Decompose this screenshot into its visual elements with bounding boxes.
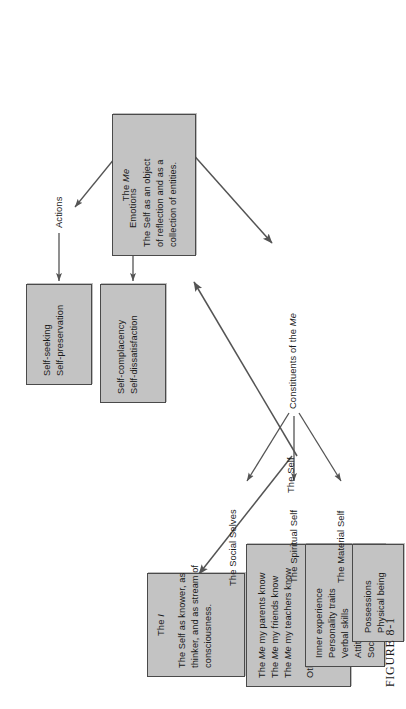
root-label-the-self: The Self bbox=[285, 457, 296, 493]
the-i-body: The Self as knower, as thinker, and as s… bbox=[176, 582, 215, 668]
the-me-body: The Self as an object of reflection and … bbox=[141, 123, 180, 247]
actions-items: Self-seeking Self-preservation bbox=[41, 293, 67, 376]
list-item: The Me my friends know bbox=[269, 553, 282, 678]
the-i-title: The I bbox=[154, 582, 167, 668]
diagram-canvas: The Self The I The Self as knower, as th… bbox=[0, 0, 406, 709]
node-box-the-i: The I The Self as knower, as thinker, an… bbox=[147, 573, 245, 677]
rotated-figure-container: The Self The I The Self as knower, as th… bbox=[0, 0, 406, 709]
list-item: Inner experience bbox=[313, 553, 326, 658]
label-emotions: Emotions bbox=[127, 188, 138, 228]
label-the-social-selves: The Social Selves bbox=[227, 509, 238, 586]
node-box-the-me: The Me The Self as an object of reflecti… bbox=[112, 114, 196, 256]
node-box-emotions: Self-complacency Self-dissatisfaction bbox=[100, 284, 166, 403]
edge-self-to-me bbox=[194, 282, 297, 456]
figure-caption: FIGURE8-1 bbox=[383, 617, 398, 687]
label-the-material-self: The Material Self bbox=[335, 510, 346, 583]
emotions-items: Self-complacency Self-dissatisfaction bbox=[115, 293, 141, 394]
label-the-spiritual-self: The Spiritual Self bbox=[288, 510, 299, 583]
label-constituents-of-the-me: Constituents of the Me bbox=[287, 313, 298, 409]
edge-constituents-to-material bbox=[299, 413, 341, 481]
figure-caption-number: 8-1 bbox=[383, 617, 397, 635]
node-box-actions: Self-seeking Self-preservation bbox=[26, 284, 92, 385]
figure-caption-label: FIGURE bbox=[383, 639, 397, 687]
edge-constituents-to-social bbox=[247, 413, 289, 481]
list-item: Possessions bbox=[362, 553, 375, 633]
the-me-title: The Me bbox=[119, 123, 132, 247]
figure-page: The Self The I The Self as knower, as th… bbox=[0, 0, 406, 709]
label-actions: Actions bbox=[53, 197, 64, 228]
list-item: The Me my parents know bbox=[256, 553, 269, 678]
